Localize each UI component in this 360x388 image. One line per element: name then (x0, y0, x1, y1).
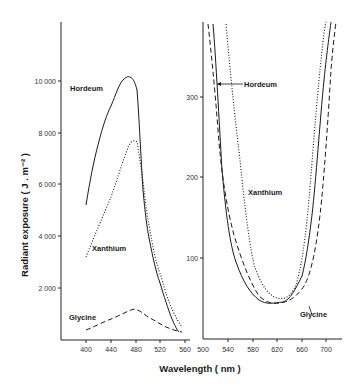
y-tick-4000: 4 000 (38, 233, 56, 240)
right-glycine-label: Glycine (300, 310, 327, 319)
left-glycine-curve (86, 309, 182, 332)
y-tick-10000: 10 000 (35, 78, 57, 85)
right-panel: 300 200 100 500 540 580 620 660 700 Hord… (186, 22, 342, 353)
y-tick-200: 200 (186, 174, 198, 181)
right-xanthium-label: Xanthium (248, 188, 282, 197)
left-y-ticks: 2 000 4 000 6 000 8 000 10 000 (35, 78, 61, 292)
x-tick-620: 620 (271, 346, 283, 353)
x-tick-700: 700 (320, 346, 332, 353)
chart-figure: 2 000 4 000 6 000 8 000 10 000 400 440 4… (0, 0, 360, 388)
x-tick-660: 660 (296, 346, 308, 353)
right-x-ticks: 500 540 580 620 660 700 (197, 339, 332, 353)
y-tick-300: 300 (186, 94, 198, 101)
y-axis-title: Radiant exposure ( J . m⁻² ) (19, 153, 30, 277)
left-glycine-label: Glycine (69, 313, 96, 322)
y-tick-6000: 6 000 (38, 181, 56, 188)
left-hordeum-curve (86, 77, 179, 332)
x-tick-520: 520 (154, 346, 166, 353)
y-tick-2000: 2 000 (38, 285, 56, 292)
right-y-ticks: 300 200 100 (186, 94, 203, 262)
left-xanthium-curve (86, 141, 182, 327)
x-tick-480: 480 (130, 346, 142, 353)
x-tick-560: 560 (179, 346, 191, 353)
y-tick-8000: 8 000 (38, 130, 56, 137)
x-tick-540: 540 (222, 346, 234, 353)
left-panel: 2 000 4 000 6 000 8 000 10 000 400 440 4… (35, 22, 191, 353)
x-axis-title: Wavelength ( nm ) (159, 363, 240, 374)
left-hordeum-label: Hordeum (70, 84, 103, 93)
x-tick-500: 500 (197, 346, 209, 353)
right-hordeum-curve (213, 22, 331, 303)
x-tick-400: 400 (80, 346, 92, 353)
y-tick-100: 100 (186, 255, 198, 262)
x-tick-440: 440 (105, 346, 117, 353)
left-x-ticks: 400 440 480 520 560 (80, 340, 191, 353)
left-xanthium-label: Xanthium (92, 244, 126, 253)
right-hordeum-label: Hordeum (244, 80, 277, 89)
x-tick-580: 580 (247, 346, 259, 353)
